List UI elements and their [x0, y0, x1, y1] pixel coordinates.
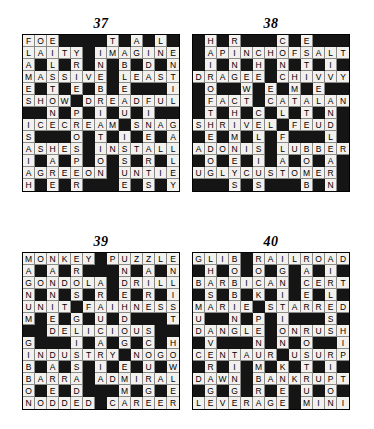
crossword-cell-block: [241, 155, 253, 167]
crossword-cell-block: [83, 373, 95, 385]
crossword-cell-block: [217, 83, 229, 95]
crossword-cell-letter: N: [131, 167, 143, 179]
crossword-cell-letter: E: [313, 167, 325, 179]
crossword-cell-block: [289, 107, 301, 119]
crossword-cell-letter: S: [71, 289, 83, 301]
crossword-cell-letter: H: [337, 325, 349, 337]
crossword-cell-block: [313, 59, 325, 71]
crossword-cell-block: [193, 59, 205, 71]
crossword-cell-block: [217, 59, 229, 71]
crossword-cell-block: [277, 83, 289, 95]
crossword-cell-letter: E: [253, 119, 265, 131]
crossword-cell-block: [217, 313, 229, 325]
crossword-cell-letter: I: [229, 47, 241, 59]
crossword-cell-letter: E: [325, 143, 337, 155]
crossword-cell-letter: N: [325, 179, 337, 191]
crossword-cell-letter: R: [253, 253, 265, 265]
crossword-cell-letter: A: [301, 265, 313, 277]
crossword-cell-block: [217, 107, 229, 119]
crossword-cell-block: [119, 119, 131, 131]
crossword-cell-letter: R: [71, 179, 83, 191]
crossword-cell-block: [193, 131, 205, 143]
crossword-cell-letter: E: [241, 71, 253, 83]
crossword-cell-block: [35, 131, 47, 143]
crossword-cell-block: [217, 337, 229, 349]
crossword-cell-letter: A: [23, 167, 35, 179]
crossword-cell-letter: O: [71, 277, 83, 289]
crossword-cell-letter: R: [131, 397, 143, 409]
crossword-cell-letter: E: [277, 385, 289, 397]
crossword-cell-block: [337, 131, 349, 143]
crossword-cell-letter: I: [241, 277, 253, 289]
crossword-cell-letter: I: [95, 143, 107, 155]
crossword-cell-block: [325, 35, 337, 47]
crossword-cell-letter: N: [131, 301, 143, 313]
crossword-cell-block: [289, 265, 301, 277]
crossword-cell-letter: I: [277, 313, 289, 325]
crossword-cell-letter: A: [265, 253, 277, 265]
crossword-cell-letter: V: [217, 397, 229, 409]
crossword-cell-letter: I: [167, 289, 179, 301]
crossword-cell-letter: I: [253, 155, 265, 167]
crossword-cell-letter: A: [95, 277, 107, 289]
crossword-cell-letter: E: [47, 313, 59, 325]
crossword-cell-letter: B: [253, 373, 265, 385]
crossword-cell-block: [301, 313, 313, 325]
crossword-cell-block: [107, 179, 119, 191]
crossword-cell-block: [193, 107, 205, 119]
crossword-cell-letter: T: [205, 107, 217, 119]
crossword-cell-letter: G: [143, 385, 155, 397]
crossword-cell-block: [337, 265, 349, 277]
crossword-cell-letter: O: [143, 349, 155, 361]
crossword-cell-letter: I: [23, 119, 35, 131]
crossword-cell-letter: N: [277, 373, 289, 385]
crossword-cell-letter: Y: [337, 71, 349, 83]
crossword-cell-block: [155, 265, 167, 277]
crossword-cell-letter: I: [47, 301, 59, 313]
crossword-cell-letter: E: [47, 179, 59, 191]
crossword-cell-block: [265, 313, 277, 325]
crossword-cell-letter: L: [265, 119, 277, 131]
crossword-cell-block: [313, 35, 325, 47]
crossword-cell-letter: A: [47, 265, 59, 277]
crossword-cell-block: [265, 131, 277, 143]
crossword-cell-block: [107, 277, 119, 289]
crossword-cell-letter: R: [59, 373, 71, 385]
crossword-cell-letter: R: [301, 253, 313, 265]
crossword-cell-letter: E: [205, 349, 217, 361]
crossword-cell-block: [83, 107, 95, 119]
crossword-cell-letter: E: [277, 397, 289, 409]
crossword-cell-block: [265, 143, 277, 155]
crossword-cell-letter: I: [325, 265, 337, 277]
crossword-cell-letter: P: [217, 47, 229, 59]
crossword-cell-block: [265, 289, 277, 301]
crossword-cell-block: [337, 107, 349, 119]
crossword-cell-letter: L: [217, 167, 229, 179]
crossword-cell-letter: R: [143, 373, 155, 385]
crossword-grid-37: FOETALLAITYIMAGINEALRNBDNMASSIVELEASTETE…: [22, 34, 180, 192]
crossword-cell-letter: I: [337, 337, 349, 349]
crossword-cell-letter: H: [205, 265, 217, 277]
crossword-cell-letter: O: [301, 337, 313, 349]
crossword-cell-letter: D: [107, 373, 119, 385]
crossword-cell-block: [83, 361, 95, 373]
crossword-cell-block: [193, 47, 205, 59]
crossword-cell-letter: S: [301, 47, 313, 59]
crossword-cell-letter: C: [265, 95, 277, 107]
crossword-cell-letter: W: [167, 361, 179, 373]
crossword-cell-block: [265, 35, 277, 47]
crossword-cell-letter: U: [253, 349, 265, 361]
crossword-cell-letter: I: [205, 59, 217, 71]
crossword-cell-letter: S: [325, 325, 337, 337]
crossword-cell-letter: S: [155, 301, 167, 313]
crossword-cell-block: [337, 59, 349, 71]
crossword-cell-letter: S: [155, 71, 167, 83]
crossword-cell-block: [155, 361, 167, 373]
crossword-cell-letter: H: [119, 301, 131, 313]
crossword-cell-letter: U: [193, 313, 205, 325]
crossword-cell-letter: M: [119, 385, 131, 397]
crossword-cell-block: [155, 59, 167, 71]
crossword-cell-letter: S: [143, 325, 155, 337]
crossword-cell-letter: E: [301, 119, 313, 131]
crossword-cell-letter: G: [229, 325, 241, 337]
